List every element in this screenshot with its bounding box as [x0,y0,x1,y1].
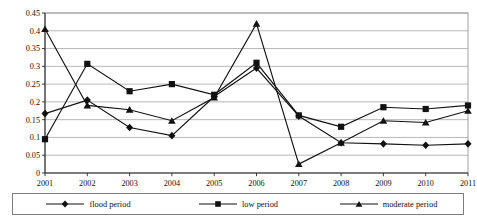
x-axis-tick-label: 2001 [37,179,53,188]
square-marker-icon [198,199,238,209]
chart-canvas: 00.050.10.150.20.250.30.350.40.452001200… [0,0,477,190]
data-point [42,136,48,142]
x-axis-tick-label: 2009 [375,179,391,188]
x-axis-tick-label: 2004 [164,179,180,188]
series-line [45,24,468,164]
y-axis-tick-label: 0.4 [30,27,40,36]
plot-frame [45,13,468,173]
data-point [169,81,175,87]
y-axis-tick-label: 0.3 [30,62,40,71]
chart-plot-area: 00.050.10.150.20.250.30.350.40.452001200… [0,0,477,190]
legend-item-flood-period: flood period [13,199,163,209]
data-point [423,106,429,112]
y-axis-tick-label: 0.05 [26,151,40,160]
data-point [338,124,344,130]
data-point [295,161,303,168]
legend-label-flood-period: flood period [89,200,130,209]
series-low-period [42,60,471,143]
data-point [380,140,387,148]
data-point [465,140,472,148]
line-chart: 00.050.10.150.20.250.30.350.40.452001200… [0,0,477,222]
y-axis-tick-label: 0.1 [30,133,40,142]
x-axis-tick-label: 2011 [460,179,476,188]
data-point [253,60,259,66]
x-axis-tick-label: 2010 [418,179,434,188]
data-point [126,124,133,132]
triangle-marker-icon [339,199,379,209]
y-axis-tick-label: 0.25 [26,80,40,89]
series-line [45,68,468,145]
data-point [422,141,429,149]
diamond-marker-icon [45,199,85,209]
x-axis-tick-label: 2002 [79,179,95,188]
legend-label-moderate-period: moderate period [383,200,438,209]
data-point [127,88,133,94]
chart-legend: flood period low period moderate period [12,193,464,215]
x-axis-tick-label: 2007 [291,179,307,188]
legend-label-low-period: low period [242,200,278,209]
x-axis-tick-label: 2003 [121,179,137,188]
series-flood-period [42,64,472,149]
data-point [41,25,49,32]
data-point [296,112,302,118]
x-axis-tick-label: 2005 [206,179,222,188]
x-axis-tick-label: 2006 [248,179,264,188]
data-point [380,104,386,110]
y-axis-tick-label: 0.15 [26,116,40,125]
x-axis-tick-label: 2008 [333,179,349,188]
data-point [42,110,49,118]
y-axis-tick-label: 0.35 [26,44,40,53]
legend-item-low-period: low period [163,199,313,209]
y-axis-tick-label: 0 [36,169,40,178]
legend-item-moderate-period: moderate period [313,199,463,209]
data-point [84,61,90,67]
y-axis-tick-label: 0.45 [26,9,40,18]
y-axis-tick-label: 0.2 [30,98,40,107]
series-line [45,63,468,139]
data-point [253,20,261,27]
